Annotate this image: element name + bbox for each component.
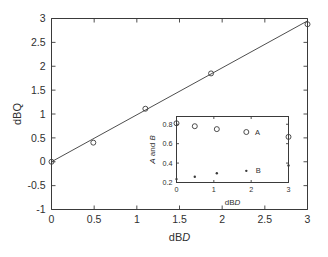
y-tick-label: 2.5 [31,36,46,48]
y-tick-label: 0.6 [163,139,173,148]
y-tick-label: 0 [40,155,46,167]
scatter-plot-figure: 00.511.522.53-1-0.500.511.522.53dBDdBQ01… [0,0,328,257]
y-tick-label: 0.8 [163,120,173,129]
y-tick-label: 1 [40,108,46,120]
x-tick-label: 1 [134,213,140,225]
y-tick-label: -0.5 [27,179,45,191]
y-tick-label: 3 [40,12,46,24]
y-tick-label: 0.4 [163,159,173,168]
y-tick-label: 1.5 [31,84,46,96]
x-tick-label: 0 [49,213,55,225]
x-tick-label: 2 [219,213,225,225]
x-tick-label: 1 [212,185,216,194]
x-tick-label: 0.5 [87,213,102,225]
data-point [194,175,196,177]
y-tick-label: -1 [36,203,45,215]
x-tick-label: 3 [305,213,311,225]
data-point [216,172,218,174]
data-point [245,170,247,172]
x-tick-label: 2.5 [258,213,273,225]
x-tick-label: 1.5 [172,213,187,225]
y-tick-label: 2 [40,60,46,72]
y-tick-label: 0.5 [31,132,46,144]
series-annotation-B: B [256,166,261,175]
inset-axes: 01230.20.40.60.8dBDA and BAB [148,117,292,207]
data-point [91,140,96,145]
data-point [175,178,177,180]
x-axis-title: dBD [169,231,190,243]
x-tick-label: 2 [249,185,253,194]
x-axis-title: dBD [225,198,241,207]
data-point [287,164,289,166]
x-tick-label: 0 [175,185,179,194]
figure-canvas: 00.511.522.53-1-0.500.511.522.53dBDdBQ01… [0,0,328,257]
series-annotation-A: A [255,128,260,137]
y-tick-label: 0.2 [163,178,173,187]
y-axis-title: A and B [148,135,157,165]
x-tick-label: 3 [287,185,291,194]
y-axis-title: dBQ [11,103,23,125]
inset-background [177,117,289,183]
